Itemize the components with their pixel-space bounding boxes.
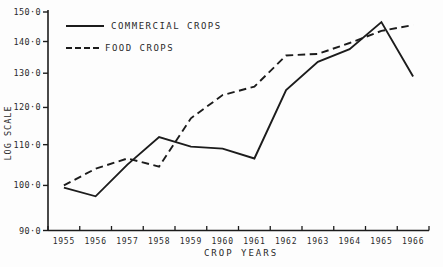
legend-label-commercial-crops: COMMERCIAL CROPS xyxy=(111,21,222,31)
x-tick-label: 1965 xyxy=(370,237,392,246)
x-axis-label: CROP YEARS xyxy=(185,248,297,258)
y-tick-label: 150·0 xyxy=(13,7,41,17)
legend-item-commercial-crops: COMMERCIAL CROPS xyxy=(66,19,222,32)
x-tick-label: 1961 xyxy=(243,237,265,246)
legend-label-food-crops: FOOD CROPS xyxy=(105,43,174,53)
dashed-line-swatch xyxy=(66,47,99,49)
x-tick-label: 1963 xyxy=(307,237,329,246)
x-tick-label: 1962 xyxy=(275,237,297,246)
x-tick-label: 1958 xyxy=(148,237,170,246)
y-tick-label: 90·0 xyxy=(19,226,41,236)
legend: COMMERCIAL CROPS FOOD CROPS xyxy=(66,19,222,63)
crops-log-chart: 90·0100·0110·0120·0130·0140·0150·0195519… xyxy=(0,0,443,267)
x-tick-label: 1964 xyxy=(338,237,360,246)
y-tick-label: 120·0 xyxy=(13,102,41,112)
y-tick-label: 140·0 xyxy=(13,37,41,47)
solid-line-swatch xyxy=(66,25,104,27)
x-tick-label: 1955 xyxy=(53,237,75,246)
x-tick-label: 1966 xyxy=(402,237,424,246)
y-tick-label: 110·0 xyxy=(13,140,41,150)
y-axis-label: LOG SCALE xyxy=(3,97,15,169)
y-tick-label: 100·0 xyxy=(13,180,41,190)
x-tick-label: 1960 xyxy=(211,237,233,246)
y-tick-label: 130·0 xyxy=(13,68,41,78)
x-tick-label: 1956 xyxy=(84,237,106,246)
x-tick-label: 1959 xyxy=(180,237,202,246)
legend-item-food-crops: FOOD CROPS xyxy=(66,41,222,54)
x-tick-label: 1957 xyxy=(116,237,138,246)
